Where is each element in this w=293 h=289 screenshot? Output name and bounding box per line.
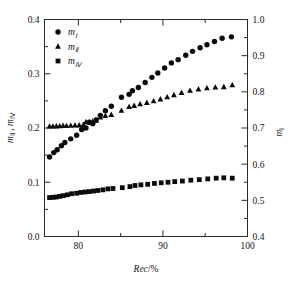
data-point [106,186,111,191]
data-point [87,189,92,194]
data-point [137,101,143,106]
data-point [145,182,150,187]
data-point [69,191,74,196]
data-point [142,80,147,85]
data-point [204,42,209,47]
series-triangle [47,82,236,129]
left-y-tick-label: 0.2 [28,123,40,133]
right-y-tick-label: 0.8 [253,87,265,97]
data-point [74,191,79,196]
data-point [190,49,195,54]
x-axis-tick-labels: 8090100 [74,241,255,251]
data-point [157,96,163,101]
legend-marker-square [56,59,61,64]
data-point [164,94,170,99]
data-point [162,65,167,70]
data-point [78,190,83,195]
x-tick-label: 100 [240,241,255,251]
data-point [144,100,150,105]
x-tick-label: 90 [158,241,168,251]
data-point [126,104,132,109]
x-tick-label: 80 [74,241,84,251]
data-point [83,190,88,195]
figure-container: 8090100 0.00.10.20.30.4 0.40.50.60.70.80… [0,0,293,289]
data-point [120,185,125,190]
data-point [212,84,218,89]
scatter-plot: 8090100 0.00.10.20.30.4 0.40.50.60.70.80… [0,0,293,289]
data-point [119,95,124,100]
data-point [180,179,185,184]
x-axis-ticks [78,20,247,237]
data-point [229,34,234,39]
right-y-tick-label: 0.9 [253,51,265,61]
data-series-layer [47,34,236,200]
data-point [130,88,135,93]
data-point [139,182,144,187]
data-point [128,184,133,189]
data-point [171,92,177,97]
data-point [131,103,137,108]
left-y-axis-title: mⅡ , mⅣ [5,112,16,143]
left-y-tick-label: 0.0 [28,232,40,242]
data-point [133,183,138,188]
data-point [109,104,114,109]
right-y-tick-label: 0.6 [253,160,265,170]
data-point [159,180,164,185]
data-point [108,112,114,117]
left-y-tick-label: 0.1 [28,178,40,188]
right-y-axis-title: mⅠ [274,128,285,137]
data-point [61,193,66,198]
data-point [47,154,52,159]
data-point [95,188,100,193]
data-point [155,70,160,75]
series-square [47,175,234,200]
data-point [197,45,202,50]
left-y-tick-label: 0.3 [28,69,40,79]
data-point [54,147,59,152]
data-point [196,86,202,91]
data-point [188,178,193,183]
right-y-tick-label: 0.4 [253,232,265,242]
data-point [229,82,235,87]
data-point [102,113,108,118]
data-point [100,187,105,192]
data-point [169,60,174,65]
data-point [179,90,185,95]
right-y-tick-label: 0.5 [253,196,265,206]
legend-label-triangle: mⅡ [68,42,79,53]
data-point [187,87,193,92]
data-point [166,180,171,185]
legend-label-square: mⅣ [68,56,83,67]
right-y-tick-label: 0.7 [253,123,265,133]
data-point [91,189,96,194]
legend-label-circle: mⅠ [68,27,78,38]
data-point [149,75,154,80]
data-point [103,108,108,113]
data-point [111,186,116,191]
x-axis-title: Rec/% [133,264,159,274]
data-point [119,107,125,112]
left-y-tick-label: 0.4 [28,15,40,25]
data-point [152,181,157,186]
legend-marker-triangle [55,43,61,48]
data-point [197,177,202,182]
data-point [204,85,210,90]
right-y-tick-label: 1.0 [253,15,265,25]
data-point [205,176,210,181]
data-point [65,192,70,197]
data-point [219,36,224,41]
legend-marker-circle [55,29,60,34]
data-point [151,98,157,103]
data-point [136,85,141,90]
data-point [214,176,219,181]
data-point [68,136,73,141]
right-y-axis-tick-labels: 0.40.50.60.70.80.91.0 [253,15,265,242]
data-point [172,179,177,184]
legend: mⅠmⅡmⅣ [55,27,83,67]
left-y-axis-tick-labels: 0.00.10.20.30.4 [28,15,40,242]
data-point [221,84,227,89]
data-point [183,53,188,58]
right-y-axis-ticks [242,20,248,237]
data-point [230,176,235,181]
data-point [62,140,67,145]
